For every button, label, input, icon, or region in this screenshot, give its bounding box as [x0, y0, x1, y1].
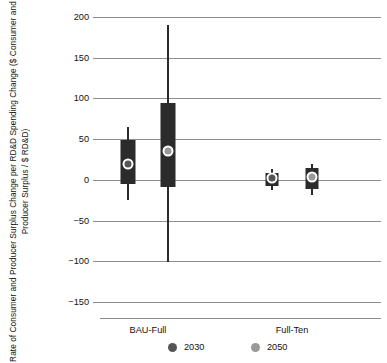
gridline	[100, 221, 381, 222]
x-axis-tick-label: BAU-Full	[130, 325, 167, 335]
median-marker	[123, 158, 134, 169]
legend-swatch-2030	[168, 343, 177, 352]
y-axis-tick	[93, 98, 100, 99]
median-marker	[163, 146, 174, 157]
gridline	[100, 180, 381, 181]
legend-item-2030[interactable]: 2030	[168, 342, 204, 352]
legend-label-2050: 2050	[267, 342, 287, 352]
y-axis-tick	[93, 261, 100, 262]
y-axis-tick-label: 0	[0, 175, 89, 185]
y-axis-tick	[93, 58, 100, 59]
x-axis-line	[100, 318, 381, 319]
gridline	[100, 98, 381, 99]
y-axis-tick-label: 150	[0, 53, 89, 63]
gridline	[100, 302, 381, 303]
y-axis-tick-label: −150	[0, 297, 89, 307]
gridline	[100, 17, 381, 18]
y-axis-tick-label: −50	[0, 216, 89, 226]
median-marker	[307, 171, 318, 182]
boxplot-figure: Rate of Consumer and Producer Surplus Ch…	[0, 0, 387, 363]
y-axis-tick-label: 50	[0, 134, 89, 144]
y-axis-tick	[93, 139, 100, 140]
legend-label-2030: 2030	[184, 342, 204, 352]
y-axis-tick-label: 100	[0, 93, 89, 103]
y-axis-tick	[93, 302, 100, 303]
box-body	[161, 103, 176, 188]
y-axis-tick	[93, 221, 100, 222]
legend-swatch-2050	[251, 343, 260, 352]
y-axis-tick-label: 200	[0, 12, 89, 22]
y-axis-tick-label: −100	[0, 256, 89, 266]
legend-item-2050[interactable]: 2050	[251, 342, 287, 352]
gridline	[100, 139, 381, 140]
gridline	[100, 261, 381, 262]
gridline	[100, 58, 381, 59]
median-marker	[267, 173, 278, 184]
y-axis-tick	[93, 180, 100, 181]
x-axis-tick-label: Full-Ten	[276, 325, 309, 335]
y-axis-tick	[93, 17, 100, 18]
